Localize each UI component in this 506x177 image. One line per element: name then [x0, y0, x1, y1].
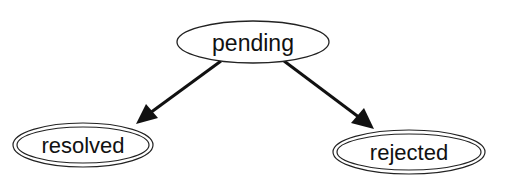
state-node-resolved[interactable]: resolved: [13, 123, 153, 167]
edge-pending-to-rejected: [284, 61, 374, 129]
state-label-rejected: rejected: [370, 140, 448, 165]
state-diagram: pending resolved rejected: [0, 0, 506, 177]
edge-pending-to-resolved: [136, 61, 221, 124]
state-node-rejected[interactable]: rejected: [333, 130, 485, 174]
state-node-pending[interactable]: pending: [177, 21, 329, 63]
state-label-pending: pending: [212, 30, 294, 56]
state-label-resolved: resolved: [41, 133, 124, 158]
